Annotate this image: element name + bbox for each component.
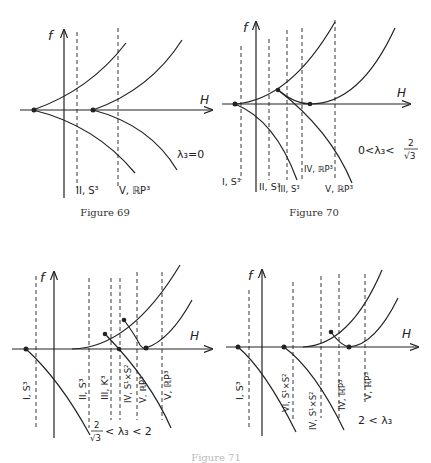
curve-branch: [124, 320, 146, 349]
figure-70: f H I, S³ II, S³ III, S³ IV, ℝP³ V, ℝP³ …: [222, 20, 418, 194]
condition-label: 2 < λ₃: [358, 414, 392, 427]
f-axis-label: f: [48, 28, 55, 43]
curve-upper: [72, 265, 180, 349]
separatrix-label: III, K³: [99, 375, 110, 400]
separatrix-label: I, S³: [234, 381, 245, 400]
condition-label: 0<λ₃<: [358, 144, 394, 157]
critical-point: [276, 88, 281, 93]
critical-point: [117, 347, 122, 352]
separatrix-label: V, ℝP³: [138, 377, 148, 403]
figure-71-caption: Figure 71: [156, 452, 276, 463]
critical-point: [122, 318, 127, 323]
separatrix-label: IV, ℝP³: [337, 379, 347, 410]
separatrix-label: II, S³: [77, 378, 88, 400]
curve-upper-2: [93, 40, 182, 110]
h-axis-label: H: [397, 86, 406, 100]
curve-upper: [303, 270, 382, 347]
h-axis-label: H: [190, 329, 199, 343]
condition-numerator: 2: [408, 138, 414, 148]
critical-point: [233, 102, 238, 107]
critical-point: [91, 108, 96, 113]
separatrix-label: III, S³: [278, 184, 300, 194]
f-axis-label: f: [40, 270, 47, 285]
curve-upper-1: [33, 43, 126, 110]
f-axis-label: f: [243, 20, 250, 35]
curve-upper-2: [310, 28, 395, 104]
separatrix-label: IV, S¹×S²: [308, 392, 318, 430]
separatrix-label: IV, S¹×S²: [123, 365, 133, 403]
figure-70-caption: Figure 70: [254, 207, 374, 218]
separatrix-label: I, S³: [222, 176, 241, 187]
figure-69-caption: Figure 69: [45, 207, 165, 218]
separatrix-label: V, ℝP³: [325, 184, 353, 194]
condition-denominator: √3: [90, 433, 101, 443]
separatrix-label: V, ℝP³: [363, 372, 373, 400]
condition-label: < λ₃ < 2: [105, 425, 152, 438]
curve-upper-1: [235, 22, 335, 104]
separatrix-label: V, ℝP³: [119, 185, 150, 196]
critical-point: [103, 332, 108, 337]
curve-lower-1: [235, 104, 297, 180]
critical-point: [347, 345, 352, 350]
curve-upper-2: [146, 300, 192, 348]
separatrix-label: II, S³: [76, 185, 99, 196]
h-axis-label: H: [402, 327, 411, 341]
critical-point: [144, 346, 149, 351]
separatrix-label: IV, ℝP³: [304, 164, 333, 174]
figure-71-right: f H I, S³ VI, S¹×S² IV, S¹×S² IV, ℝP³ V,…: [226, 268, 418, 436]
curve-branch: [278, 90, 310, 104]
separatrix-label: V, ℝP³: [162, 370, 173, 400]
h-axis-label: H: [200, 93, 209, 107]
critical-point: [308, 102, 313, 107]
condition-denominator: √3: [404, 151, 415, 161]
critical-point: [32, 108, 37, 113]
figure-71-left: f H I, S³ II, S³ III, K³ IV, S¹×S² V, ℝP…: [12, 265, 212, 443]
condition-label: λ₃=0: [177, 148, 204, 161]
critical-point: [24, 347, 29, 352]
f-axis-label: f: [248, 268, 255, 283]
critical-point: [329, 330, 334, 335]
curve-branch: [331, 332, 349, 347]
curve-upper-2: [349, 298, 398, 347]
curve-lower-2: [93, 110, 177, 170]
figure-69: f H II, S³ V, ℝP³ λ₃=0: [20, 28, 212, 198]
condition-numerator: 2: [94, 420, 99, 430]
critical-point: [282, 345, 287, 350]
separatrix-label: VI, S¹×S²: [281, 374, 291, 412]
separatrix-label: I, S³: [21, 381, 32, 400]
critical-point: [236, 345, 241, 350]
